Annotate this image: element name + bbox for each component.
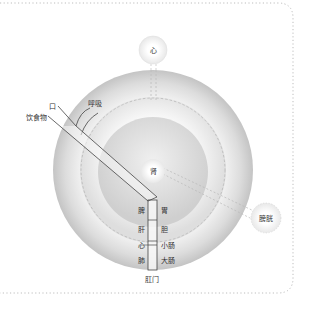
tract-right-label-small-intestine: 小肠 xyxy=(161,241,175,250)
tract-right-label-large-intestine: 大肠 xyxy=(161,256,175,265)
kidney-node-label: 肾 xyxy=(150,167,157,176)
tract-right-label-stomach: 胃 xyxy=(161,207,168,215)
tract-left-label-liver: 肝 xyxy=(138,226,145,234)
heart-node-label: 心 xyxy=(150,47,157,55)
bladder-node-label: 膀胱 xyxy=(259,214,273,223)
digestive-tract xyxy=(148,200,157,270)
tract-left-label-heart: 心 xyxy=(138,242,145,250)
tract-right-label-gallbladder: 胆 xyxy=(161,226,168,234)
food-label: 饮食物 xyxy=(26,113,47,122)
tract-left-label-lung: 肺 xyxy=(138,257,145,265)
mouth-label: 口 xyxy=(49,103,56,111)
anus-label: 肛门 xyxy=(145,275,159,284)
tract-left-label-spleen: 脾 xyxy=(138,206,145,215)
breath-label: 呼吸 xyxy=(88,99,102,108)
five-organ-diagram: 心 肾 膀胱 呼吸 口 饮食物 脾 肝 心 肺 胃 胆 小肠 大肠 肛门 xyxy=(0,0,312,310)
